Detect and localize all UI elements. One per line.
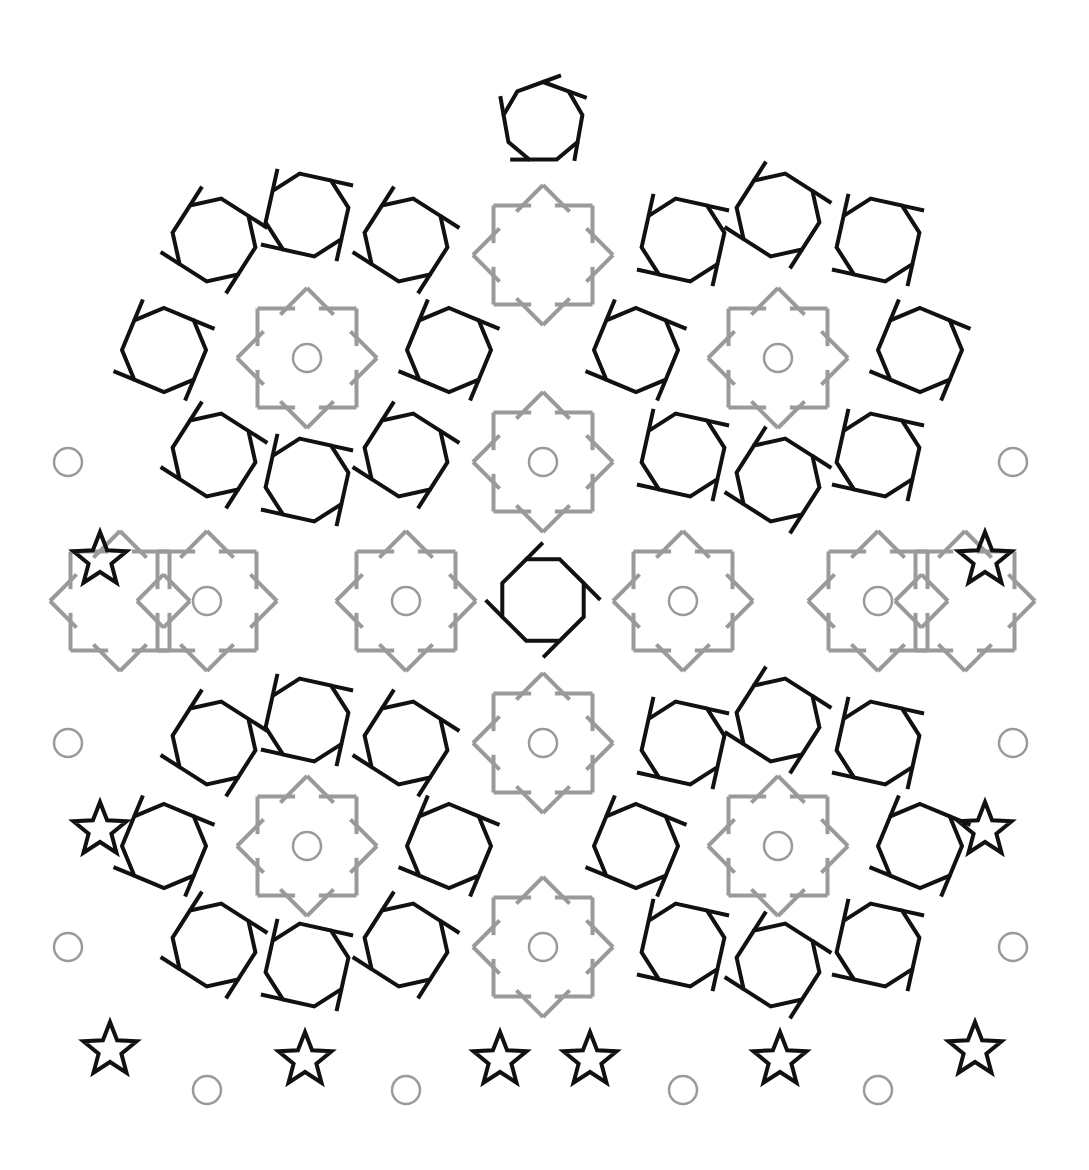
- gray-star-segment: [307, 889, 334, 916]
- gray-star-segment: [207, 644, 234, 671]
- gray-star-segment: [586, 462, 613, 489]
- gray-star-segment: [708, 846, 735, 873]
- gray-circle: [999, 448, 1027, 476]
- black-tail-segment: [543, 641, 560, 658]
- gray-star-segment: [778, 401, 805, 428]
- gray-star-segment: [808, 574, 835, 601]
- black-polygon-layer: [73, 75, 1011, 1082]
- black-octagon: [407, 308, 491, 392]
- black-octagon: [737, 924, 820, 1007]
- gray-star-segment: [379, 644, 406, 671]
- gray-star-segment: [280, 889, 307, 916]
- gray-circle: [864, 1076, 892, 1104]
- gray-star-segment: [473, 743, 500, 770]
- gray-star-segment: [1008, 574, 1035, 601]
- gray-star-segment: [726, 601, 753, 628]
- black-octagon: [365, 414, 448, 497]
- gray-star-segment: [516, 673, 543, 700]
- gray-star-segment: [120, 644, 147, 671]
- gray-star-segment: [516, 298, 543, 325]
- black-edge-star: [73, 532, 126, 583]
- gray-star-segment: [516, 990, 543, 1017]
- gray-star-segment: [473, 947, 500, 974]
- gray-circle-layer: [54, 344, 1027, 1104]
- black-octagon: [642, 702, 725, 785]
- gray-star-segment: [851, 531, 878, 558]
- black-octagon: [837, 414, 920, 497]
- black-octagon: [594, 804, 678, 888]
- pattern-canvas: [0, 0, 1089, 1170]
- gray-star-segment: [586, 228, 613, 255]
- gray-star-segment: [350, 846, 377, 873]
- gray-star-segment: [683, 644, 710, 671]
- gray-star-segment: [237, 331, 264, 358]
- gray-circle: [392, 1076, 420, 1104]
- gray-star-segment: [449, 574, 476, 601]
- gray-star-segment: [137, 601, 164, 628]
- gray-star-segment: [895, 601, 922, 628]
- black-octagon: [173, 414, 256, 497]
- gray-star-segment: [543, 786, 570, 813]
- black-edge-star: [753, 1032, 806, 1083]
- black-tail-segment: [543, 75, 561, 82]
- black-octagon: [878, 804, 962, 888]
- black-octagon: [365, 199, 448, 282]
- gray-star-segment: [586, 255, 613, 282]
- black-octagon: [737, 174, 820, 257]
- gray-star-segment: [473, 228, 500, 255]
- gray-star-segment: [708, 331, 735, 358]
- gray-circle: [54, 729, 82, 757]
- gray-star-segment: [336, 574, 363, 601]
- gray-star-segment: [586, 947, 613, 974]
- gray-star-segment: [808, 601, 835, 628]
- black-octagon: [173, 199, 256, 282]
- gray-star-segment: [516, 392, 543, 419]
- gray-circle: [999, 729, 1027, 757]
- gray-circle: [529, 448, 557, 476]
- gray-star-segment: [543, 185, 570, 212]
- black-octagon: [122, 804, 206, 888]
- gray-star-segment: [93, 644, 120, 671]
- gray-star-segment: [406, 531, 433, 558]
- gray-star-segment: [543, 392, 570, 419]
- gray-star-segment: [473, 462, 500, 489]
- gray-star-segment: [543, 505, 570, 532]
- gray-star-segment: [751, 776, 778, 803]
- black-edge-star: [473, 1032, 526, 1083]
- gray-star-segment: [821, 819, 848, 846]
- gray-star-segment: [237, 358, 264, 385]
- gray-star-segment: [778, 776, 805, 803]
- gray-star-segment: [280, 776, 307, 803]
- gray-circle: [392, 587, 420, 615]
- geometric-pattern: [0, 0, 1089, 1170]
- gray-star-segment: [473, 716, 500, 743]
- gray-circle: [669, 1076, 697, 1104]
- gray-circle: [54, 933, 82, 961]
- gray-star-segment: [180, 531, 207, 558]
- gray-star-segment: [751, 288, 778, 315]
- gray-star-segment: [878, 531, 905, 558]
- gray-star-segment: [895, 574, 922, 601]
- black-octagon: [266, 679, 349, 762]
- black-edge-star: [958, 532, 1011, 583]
- black-octagon: [266, 439, 349, 522]
- gray-star-segment: [237, 846, 264, 873]
- gray-star-segment: [543, 673, 570, 700]
- gray-star-segment: [656, 531, 683, 558]
- black-edge-star: [83, 1022, 136, 1073]
- black-octagon: [365, 904, 448, 987]
- gray-star-segment: [50, 601, 77, 628]
- gray-star-segment: [613, 574, 640, 601]
- black-octagon: [173, 904, 256, 987]
- gray-star-segment: [406, 644, 433, 671]
- gray-star-segment: [778, 889, 805, 916]
- gray-circle: [529, 933, 557, 961]
- gray-star-segment: [280, 288, 307, 315]
- gray-star-segment: [878, 644, 905, 671]
- gray-star-segment: [656, 644, 683, 671]
- black-octagon: [837, 199, 920, 282]
- gray-star-segment: [473, 920, 500, 947]
- gray-circle: [293, 832, 321, 860]
- black-octagon: [642, 414, 725, 497]
- black-octagon: [502, 559, 583, 640]
